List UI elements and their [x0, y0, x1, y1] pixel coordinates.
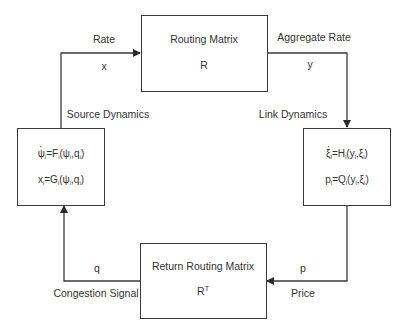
routing-matrix-symbol: R	[200, 59, 208, 71]
price-symbol: p	[300, 262, 306, 274]
source-dynamics-label-text: Source Dynamics	[67, 108, 149, 120]
link-equation-1: ξl=Hl(yl,ξl)	[326, 148, 368, 160]
congestion-signal-label: Congestion Signal	[53, 287, 138, 299]
return-routing-matrix-title: Return Routing Matrix	[152, 260, 254, 272]
routing-matrix-box	[141, 15, 268, 92]
link-equation-2: pl=Ql(yl,ξl)	[325, 174, 369, 186]
source-equation-1: ψi=Fi(ψi,qi)	[38, 148, 85, 160]
aggregate-rate-label: Aggregate Rate	[277, 31, 351, 43]
return-routing-matrix-box	[140, 243, 267, 319]
price-label: Price	[291, 287, 315, 299]
source-dynamics-box	[17, 128, 105, 206]
aggregate-rate-symbol: y	[307, 58, 312, 70]
return-routing-matrix-symbol: RT	[197, 285, 209, 297]
routing-matrix-title: Routing Matrix	[170, 33, 238, 45]
rate-symbol: x	[101, 60, 106, 72]
rate-label: Rate	[93, 33, 115, 45]
link-dynamics-box	[303, 128, 391, 206]
source-equation-2: xi=Gi(ψi,qi)	[38, 174, 84, 186]
congestion-symbol: q	[94, 262, 100, 274]
link-dynamics-label: Link Dynamics	[259, 108, 327, 120]
